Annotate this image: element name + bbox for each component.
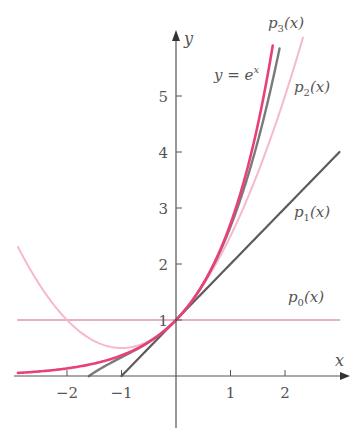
label-p3: p3(x)	[268, 14, 304, 34]
series-p3-line	[89, 49, 280, 377]
label-p1: p1(x)	[294, 203, 330, 223]
y-axis-arrow-icon	[172, 30, 180, 41]
y-tick-label: 3	[158, 200, 168, 218]
y-axis-label: y	[183, 29, 194, 48]
y-tick-label: 1	[158, 312, 168, 330]
y-tick-label: 5	[158, 88, 168, 106]
x-axis-arrow-icon	[340, 372, 350, 380]
x-tick-label: 2	[280, 384, 290, 402]
series-p1-line	[122, 152, 340, 376]
y-tick-label: 2	[158, 256, 168, 274]
y-tick-label: 4	[158, 144, 168, 162]
series-exp-line	[18, 46, 273, 373]
x-axis-label: x	[335, 351, 344, 370]
x-tick-label: −2	[56, 384, 78, 402]
labels-group: x y y = exp3(x)p2(x)p1(x)p0(x)	[183, 14, 344, 370]
label-exp: y = ex	[213, 64, 259, 84]
curves-group	[18, 38, 340, 377]
label-p2: p2(x)	[294, 78, 330, 98]
taylor-polynomials-chart: −2−11212345 x y y = exp3(x)p2(x)p1(x)p0(…	[0, 0, 361, 429]
x-tick-label: −1	[110, 384, 132, 402]
series-p2-line	[18, 38, 303, 348]
x-tick-label: 1	[226, 384, 236, 402]
label-p0: p0(x)	[288, 288, 324, 308]
